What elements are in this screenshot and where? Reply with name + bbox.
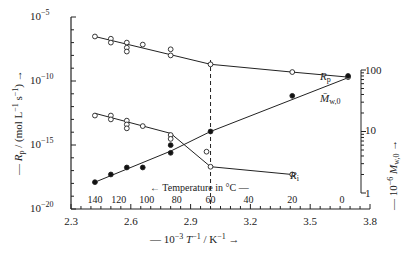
right-tick-label: 10 xyxy=(365,124,377,136)
data-point xyxy=(290,70,295,75)
data-point xyxy=(93,180,98,185)
data-point xyxy=(93,113,98,118)
label-ri: Ri xyxy=(289,169,300,183)
data-point xyxy=(124,165,129,170)
left-axis-ticks xyxy=(71,17,76,209)
data-point xyxy=(168,136,173,141)
x-tick-label: 2.3 xyxy=(64,215,78,227)
series-line xyxy=(95,113,292,174)
right-tick-label: 100 xyxy=(365,64,382,76)
data-point xyxy=(140,42,145,47)
x-axis-title: — 10−3 T−1 / K−1 → xyxy=(149,232,239,245)
x-tick-labels: 2.32.62.93.23.53.8 xyxy=(64,215,377,227)
temperature-axis-title: ← Temperature in °C — xyxy=(150,182,250,193)
data-point xyxy=(108,172,113,177)
label-mw0: M̄w,0 xyxy=(319,92,340,106)
temperature-tick-label: 40 xyxy=(243,194,253,205)
data-point xyxy=(124,40,129,45)
data-point xyxy=(140,124,145,129)
data-point xyxy=(124,49,129,54)
data-point xyxy=(168,53,173,58)
series-line xyxy=(95,37,348,78)
x-tick-label: 2.9 xyxy=(184,215,198,227)
data-point xyxy=(208,164,213,169)
x-tick-label: 3.2 xyxy=(244,215,258,227)
y-tick-label: 10−15 xyxy=(30,136,54,150)
data-point xyxy=(346,74,351,79)
temperature-tick-label: 140 xyxy=(87,194,102,205)
data-point xyxy=(204,149,209,154)
y-tick-label: 10−10 xyxy=(30,72,54,86)
data-point xyxy=(93,34,98,39)
right-tick-label: 1 xyxy=(365,187,371,199)
arrhenius-chart: 10−5 10−10 10−15 10−20 2.32.62.93.23.53.… xyxy=(0,0,410,253)
data-point xyxy=(168,47,173,52)
label-rp: Rp xyxy=(319,70,331,84)
temperature-tick-label: 0 xyxy=(340,194,345,205)
data-point xyxy=(290,93,295,98)
temperature-tick-label: 100 xyxy=(139,194,154,205)
data-point xyxy=(108,40,113,45)
temperature-tick-labels: 140120100806040200 xyxy=(87,194,344,205)
right-axis-title: — 10−6 Mw,0 → xyxy=(386,140,401,211)
x-tick-label: 3.8 xyxy=(363,215,377,227)
data-point xyxy=(108,117,113,122)
data-point xyxy=(208,62,213,67)
temperature-tick-label: 120 xyxy=(111,194,126,205)
temperature-tick-label: 20 xyxy=(287,194,297,205)
y-tick-label: 10−20 xyxy=(30,200,54,214)
x-tick-label: 2.6 xyxy=(124,215,138,227)
temperature-tick-label: 80 xyxy=(172,194,182,205)
series-line xyxy=(95,78,348,183)
series-points xyxy=(93,34,351,184)
data-point xyxy=(168,143,173,148)
data-point xyxy=(208,129,213,134)
series-lines xyxy=(95,37,348,183)
data-point xyxy=(140,165,145,170)
data-point xyxy=(124,126,129,131)
left-axis-title: — Rp / (mol L−1 s−1) → xyxy=(11,70,26,176)
y-tick-label: 10−5 xyxy=(30,8,50,22)
data-point xyxy=(168,150,173,155)
x-tick-label: 3.5 xyxy=(303,215,317,227)
